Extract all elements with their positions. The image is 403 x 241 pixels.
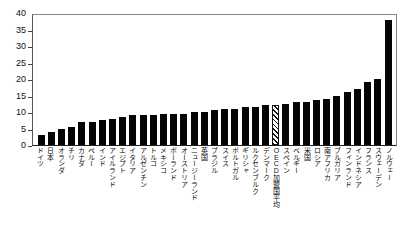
x-axis-category-labels: ドイツ日本オランダチリカナダペルーインドアイルランドエジプトイタリアアルゼンチン… bbox=[32, 147, 397, 239]
bar-series bbox=[33, 15, 396, 145]
bar bbox=[231, 109, 238, 145]
bar-slot bbox=[179, 15, 189, 145]
y-tick-label-25: 25 bbox=[16, 59, 26, 68]
bar bbox=[385, 20, 392, 145]
bar bbox=[180, 114, 187, 145]
x-label-slot: ペルー bbox=[86, 147, 96, 239]
bar bbox=[191, 112, 198, 145]
y-tick-label-30: 30 bbox=[16, 42, 26, 51]
x-label-slot: ポーランド bbox=[168, 147, 178, 239]
bar-slot bbox=[87, 15, 97, 145]
bar bbox=[221, 109, 228, 145]
bar-slot bbox=[230, 15, 240, 145]
bar bbox=[38, 135, 45, 145]
y-tick-label-35: 35 bbox=[16, 26, 26, 35]
x-label-slot: ドイツ bbox=[35, 147, 45, 239]
bar-slot bbox=[107, 15, 117, 145]
bar-slot bbox=[220, 15, 230, 145]
y-tick-mark-0 bbox=[28, 146, 32, 147]
bar-slot bbox=[97, 15, 107, 145]
y-tick-label-5: 5 bbox=[21, 125, 26, 134]
x-tick-label: ルクセンブルク bbox=[251, 147, 259, 236]
x-label-slot: ポルトガル bbox=[230, 147, 240, 239]
x-tick-label: ペルー bbox=[87, 147, 95, 236]
x-label-slot: トルコ bbox=[148, 147, 158, 239]
bar bbox=[129, 115, 136, 145]
x-label-slot: ルクセンブルク bbox=[250, 147, 260, 239]
bar bbox=[211, 110, 218, 145]
x-tick-label: エジプト bbox=[118, 147, 126, 236]
x-label-slot: スペイン bbox=[281, 147, 291, 239]
x-label-slot: 南アフリカ bbox=[322, 147, 332, 239]
x-tick-label: スイス bbox=[221, 147, 229, 236]
x-label-slot: スウェーデン bbox=[373, 147, 383, 239]
bar-slot bbox=[373, 15, 383, 145]
bar-slot bbox=[199, 15, 209, 145]
bar-slot bbox=[56, 15, 66, 145]
x-label-slot: フランス bbox=[363, 147, 373, 239]
bar-slot bbox=[260, 15, 270, 145]
x-label-slot: ブラジル bbox=[209, 147, 219, 239]
y-tick-label-40: 40 bbox=[16, 9, 26, 18]
x-label-slot: 英国 bbox=[199, 147, 209, 239]
bar-slot bbox=[158, 15, 168, 145]
bar bbox=[344, 92, 351, 145]
bar-slot bbox=[332, 15, 342, 145]
x-tick-label: ロシア bbox=[313, 147, 321, 236]
x-label-slot: 米国 bbox=[302, 147, 312, 239]
x-label-slot: 日本 bbox=[45, 147, 55, 239]
x-tick-label: ドイツ bbox=[36, 147, 44, 236]
bar bbox=[48, 132, 55, 145]
x-tick-label: チリ bbox=[67, 147, 75, 236]
bar-slot bbox=[311, 15, 321, 145]
bar bbox=[354, 89, 361, 145]
bar-slot bbox=[342, 15, 352, 145]
x-tick-label: インド bbox=[98, 147, 106, 236]
x-label-slot: ノルウェー bbox=[384, 147, 394, 239]
y-tick-mark-5 bbox=[28, 130, 32, 131]
x-label-slot: OECD加盟国平均 bbox=[271, 147, 281, 239]
bar bbox=[68, 127, 75, 145]
x-label-slot: ブルガリア bbox=[332, 147, 342, 239]
bar bbox=[89, 122, 96, 145]
y-tick-mark-15 bbox=[28, 97, 32, 98]
bar-slot bbox=[352, 15, 362, 145]
bar-oecd-average bbox=[272, 105, 279, 145]
x-label-slot: アルゼンチン bbox=[138, 147, 148, 239]
bar-slot bbox=[240, 15, 250, 145]
x-tick-label: ニュージーランド bbox=[190, 147, 198, 236]
x-tick-label: 英国 bbox=[200, 147, 208, 236]
x-tick-label: ノルウェー bbox=[385, 147, 393, 236]
bar-slot bbox=[138, 15, 148, 145]
y-tick-label-15: 15 bbox=[16, 92, 26, 101]
bar bbox=[78, 122, 85, 145]
bar-slot bbox=[46, 15, 56, 145]
x-tick-label: ブラジル bbox=[210, 147, 218, 236]
x-label-slot: ギリシャ bbox=[240, 147, 250, 239]
x-tick-label: オーストリア bbox=[180, 147, 188, 236]
bar-slot bbox=[322, 15, 332, 145]
x-tick-label: スウェーデン bbox=[374, 147, 382, 236]
bar-slot bbox=[169, 15, 179, 145]
x-tick-label: スペイン bbox=[282, 147, 290, 236]
y-tick-mark-25 bbox=[28, 64, 32, 65]
bar bbox=[323, 99, 330, 145]
bar bbox=[58, 129, 65, 146]
bar bbox=[109, 119, 116, 145]
y-tick-label-20: 20 bbox=[16, 75, 26, 84]
x-tick-label: フランス bbox=[364, 147, 372, 236]
bar bbox=[374, 79, 381, 145]
x-tick-label: OECD加盟国平均 bbox=[272, 147, 280, 236]
x-tick-label: フィンランド bbox=[344, 147, 352, 236]
bar-slot bbox=[250, 15, 260, 145]
bar-slot bbox=[118, 15, 128, 145]
y-tick-mark-10 bbox=[28, 113, 32, 114]
x-tick-label: アイルランド bbox=[108, 147, 116, 236]
bar-slot bbox=[189, 15, 199, 145]
bar-slot bbox=[363, 15, 373, 145]
bar bbox=[262, 105, 269, 145]
bar-slot bbox=[383, 15, 393, 145]
y-axis: 4035302520151050 bbox=[0, 0, 26, 152]
bar bbox=[99, 120, 106, 145]
x-tick-label: 日本 bbox=[46, 147, 54, 236]
